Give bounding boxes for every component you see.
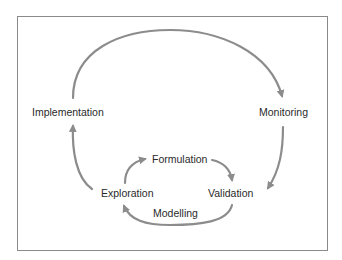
node-formulation: Formulation: [152, 153, 207, 165]
node-exploration: Exploration: [101, 187, 154, 199]
cycle-arrows: [0, 0, 342, 260]
arrow-implementation-to-monitoring: [73, 30, 282, 98]
node-monitoring: Monitoring: [259, 106, 308, 118]
edge-label-modelling: Modelling: [153, 207, 198, 219]
arrow-exploration-to-formulation: [125, 159, 145, 183]
arrow-monitoring-to-validation: [268, 127, 283, 188]
node-validation: Validation: [208, 187, 253, 199]
node-implementation: Implementation: [32, 106, 104, 118]
arrow-formulation-to-validation: [212, 160, 232, 180]
arrow-exploration-to-implementation: [73, 126, 92, 189]
